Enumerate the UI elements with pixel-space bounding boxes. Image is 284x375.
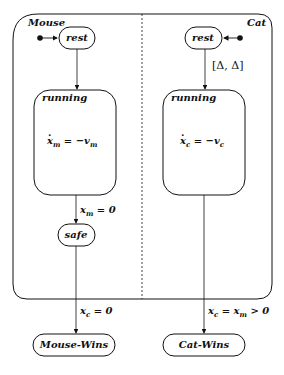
mouse-safe-guard: xm = 0 (80, 205, 116, 217)
mouse-initial-dot (37, 35, 43, 41)
mouse-flow-equation: ·xm = −vm (47, 136, 97, 148)
cat-component-label: Cat (247, 18, 266, 28)
cat-wins-guard: xc = xm > 0 (208, 306, 269, 318)
cat-wins-label: Cat-Wins (179, 340, 229, 350)
mouse-rest-label: rest (66, 33, 88, 43)
mouse-wins-label: Mouse-Wins (40, 340, 108, 350)
cat-initial-dot (237, 35, 243, 41)
system-container (13, 14, 272, 299)
cat-rest-label: rest (192, 33, 214, 43)
cat-delay-label: [Δ, Δ] (212, 60, 243, 71)
mouse-safe-label: safe (65, 230, 88, 240)
mouse-running-label: running (42, 93, 87, 103)
cat-running-label: running (171, 93, 216, 103)
mouse-component-label: Mouse (28, 18, 65, 28)
mouse-wins-guard: xc = 0 (80, 306, 113, 318)
cat-flow-equation: ·xc = −vc (180, 136, 224, 148)
